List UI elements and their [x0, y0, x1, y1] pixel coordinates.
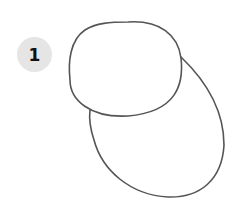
- drawing-canvas: [0, 0, 243, 218]
- head-oval: [69, 22, 181, 116]
- body-oval: [90, 57, 224, 197]
- tutorial-step: 1: [0, 0, 243, 218]
